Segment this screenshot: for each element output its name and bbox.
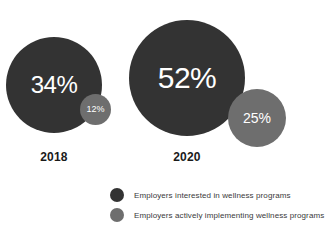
- bubble-value-2018-implementing: 12%: [86, 105, 104, 114]
- legend-label-implementing: Employers actively implementing wellness…: [134, 211, 324, 220]
- year-label-2020: 2020: [147, 150, 227, 164]
- legend-swatch-icon-implementing: [110, 208, 124, 222]
- bubble-chart: 34% 12% 2018 52% 25% 2020 Employers inte…: [0, 0, 330, 232]
- legend-swatch-icon-interested: [110, 188, 124, 202]
- bubble-2020-implementing: 25%: [228, 89, 286, 147]
- bubble-value-2020-implementing: 25%: [243, 111, 271, 125]
- legend-item-implementing: Employers actively implementing wellness…: [110, 205, 324, 225]
- legend-item-interested: Employers interested in wellness program…: [110, 185, 324, 205]
- bubble-value-2020-interested: 52%: [158, 63, 217, 93]
- bubble-2018-implementing: 12%: [80, 94, 111, 125]
- legend-label-interested: Employers interested in wellness program…: [134, 191, 291, 200]
- chart-legend: Employers interested in wellness program…: [110, 185, 324, 225]
- year-label-2018: 2018: [14, 150, 94, 164]
- bubble-value-2018-interested: 34%: [31, 73, 78, 97]
